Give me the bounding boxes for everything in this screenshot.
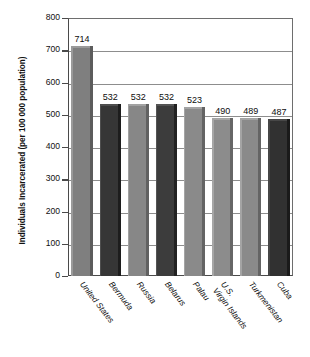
bar-value-label: 532 (103, 93, 118, 102)
bar-right-shadow (258, 118, 261, 276)
bar-chart: Individuals Incarcerated (per 100 000 po… (0, 0, 310, 357)
y-tick-label: 800 (26, 13, 60, 22)
x-axis-label-line: Belarus (163, 279, 188, 307)
bar: 523 (184, 107, 205, 276)
bar-right-shadow (146, 104, 149, 276)
x-axis-label: Palau (190, 280, 211, 303)
bar-right-shadow (118, 104, 121, 276)
bar-value-label: 489 (243, 107, 258, 116)
bar-value-label: 490 (215, 107, 230, 116)
bar-left-highlight (268, 119, 270, 276)
bar-left-highlight (100, 104, 102, 276)
y-tick-label: 700 (26, 45, 60, 54)
bar-left-highlight (184, 107, 186, 276)
bar-left-highlight (212, 118, 214, 276)
bar: 487 (268, 119, 289, 276)
bar-left-highlight (156, 104, 158, 276)
bar: 489 (240, 118, 261, 276)
bar-left-highlight (240, 118, 242, 276)
bar-right-shadow (174, 104, 177, 276)
bar-right-shadow (202, 107, 205, 276)
bar-right-shadow (287, 119, 290, 276)
bars-layer: 714532532532523490489487 (68, 18, 293, 276)
x-axis-label: Cuba (275, 280, 295, 302)
bar: 532 (156, 104, 177, 276)
x-axis-labels: United StatesBermudaRussiaBelarusPalauU.… (68, 280, 293, 357)
y-tick-mark (62, 276, 68, 277)
bar-value-label: 523 (187, 96, 202, 105)
bar-value-label: 714 (75, 35, 90, 44)
x-axis-label-line: Cuba (275, 279, 295, 301)
bar-value-label: 532 (131, 93, 146, 102)
bar-left-highlight (71, 46, 73, 276)
bar-left-highlight (128, 104, 130, 276)
bar-value-label: 532 (159, 93, 174, 102)
bar: 532 (128, 104, 149, 276)
y-tick-label: 400 (26, 142, 60, 151)
y-tick-label: 500 (26, 110, 60, 119)
y-tick-label: 100 (26, 239, 60, 248)
x-axis-label: Russia (134, 280, 157, 306)
bar: 490 (212, 118, 233, 276)
bar: 714 (71, 46, 92, 276)
y-tick-label: 200 (26, 207, 60, 216)
x-axis-label: Bermuda (106, 280, 134, 313)
y-tick-label: 600 (26, 78, 60, 87)
bar: 532 (100, 104, 121, 276)
x-axis-label-line: Palau (191, 279, 212, 302)
x-axis-label: Belarus (162, 280, 187, 308)
x-axis-label-line: Bermuda (106, 279, 135, 312)
bar-right-shadow (230, 118, 233, 276)
y-tick-label: 300 (26, 174, 60, 183)
bar-right-shadow (90, 46, 93, 276)
y-tick-label: 0 (26, 271, 60, 280)
bar-value-label: 487 (271, 108, 286, 117)
x-axis-label-line: Russia (135, 279, 159, 305)
